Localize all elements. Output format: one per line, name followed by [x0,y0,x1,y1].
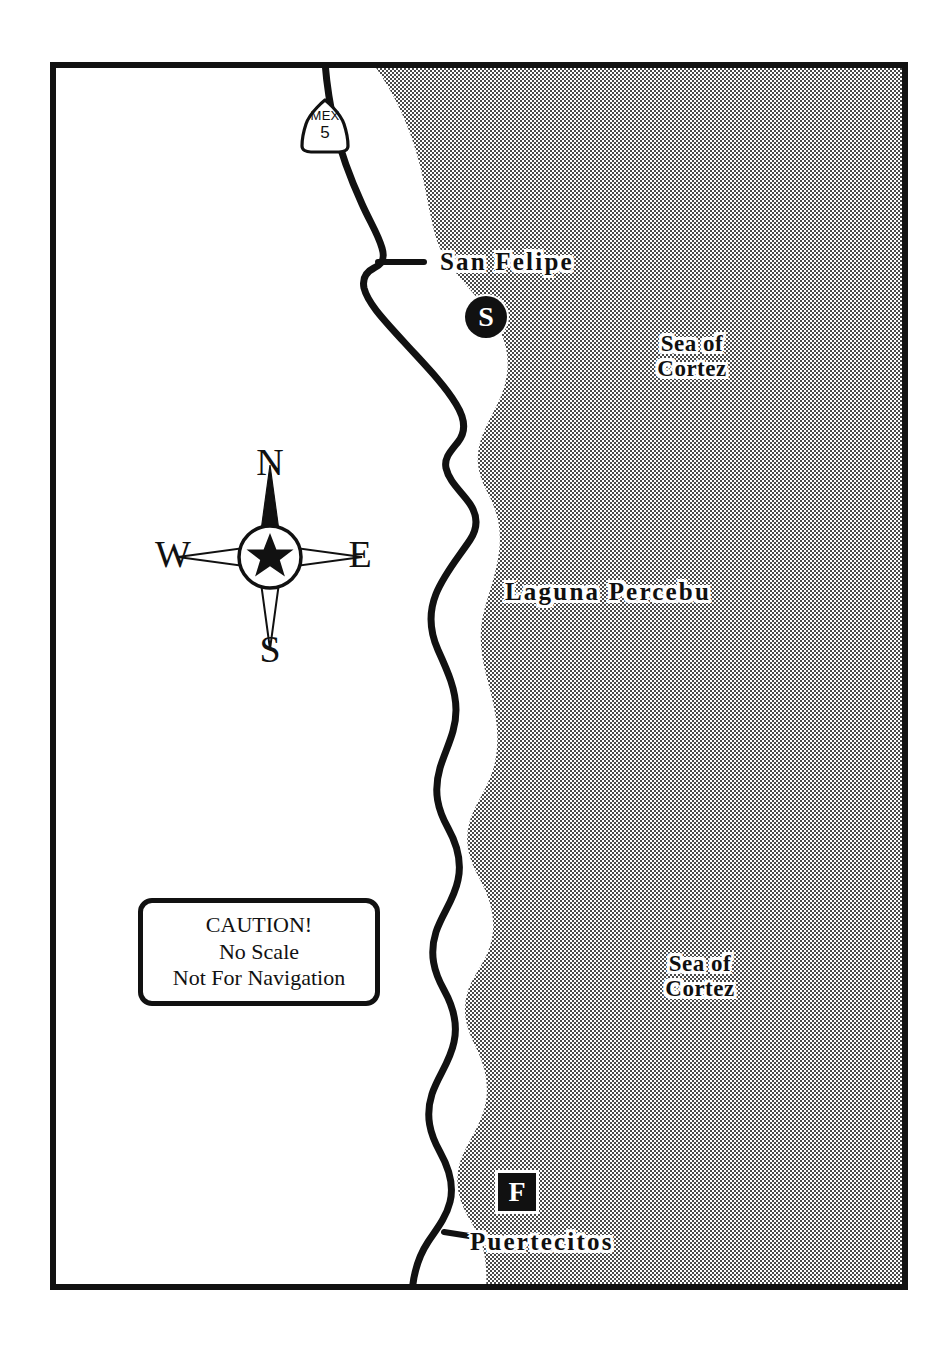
compass-label-north: N [250,440,290,484]
ferry-marker-puertecitos-icon[interactable]: F [498,1173,536,1211]
compass-label-south: S [250,627,290,671]
caution-line-1: CAUTION! [206,912,312,939]
map-canvas: MEX 5 San Felipe S Laguna Percebu Sea of… [0,0,940,1345]
sea-of-cortez-water-body [368,60,940,1292]
compass-label-east: E [340,532,380,576]
highway-shield-number: 5 [320,124,329,141]
caution-line-3: Not For Navigation [173,965,345,992]
map-graphics-layer [0,0,940,1345]
place-label-laguna-percebu: Laguna Percebu [505,578,711,605]
compass-label-west: W [150,532,196,576]
city-marker-san-felipe-icon[interactable]: S [465,296,507,338]
caution-notice-box: CAUTION! No Scale Not For Navigation [138,898,380,1006]
place-label-puertecitos: Puertecitos [470,1228,614,1255]
highway-shield-prefix: MEX [311,109,340,122]
water-label-line-1: Sea of [665,952,734,977]
water-label-sea-of-cortez-lower: Sea of Cortez [665,952,734,1002]
compass-rose [178,465,362,649]
place-label-san-felipe: San Felipe [440,248,574,275]
highway-shield-mex-5-label: MEX 5 [302,95,348,151]
caution-line-2: No Scale [219,939,299,966]
water-label-line-2: Cortez [657,357,726,382]
water-label-line-2: Cortez [665,977,734,1002]
water-label-sea-of-cortez-upper: Sea of Cortez [657,332,726,382]
water-label-line-1: Sea of [657,332,726,357]
